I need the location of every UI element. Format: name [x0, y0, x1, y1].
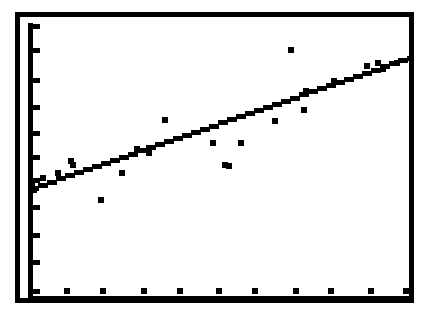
regression-line-segment [200, 127, 210, 132]
regression-line-segment [218, 120, 228, 125]
regression-line-segment [92, 164, 102, 169]
regression-line-segment [146, 145, 156, 150]
y-axis-tick [30, 205, 40, 210]
regression-line-segment [110, 158, 120, 163]
y-axis-tick [30, 78, 40, 83]
scatter-point [146, 150, 152, 156]
scatter-point [380, 66, 386, 72]
regression-line-segment [38, 183, 48, 188]
x-axis-marker [252, 288, 258, 294]
regression-line-segment [119, 155, 129, 160]
y-axis-tick [30, 289, 40, 294]
y-axis-tick [30, 24, 40, 29]
x-axis-marker [293, 288, 299, 294]
scatter-point [226, 163, 232, 169]
plot-background [0, 0, 426, 325]
scatter-point [40, 175, 46, 181]
regression-line-segment [128, 152, 138, 157]
y-axis-tick [30, 155, 40, 160]
x-axis-marker [141, 288, 147, 294]
x-axis-marker [403, 288, 409, 294]
x-axis-marker [177, 288, 183, 294]
regression-line-segment [191, 130, 201, 135]
y-axis-tick [30, 105, 40, 110]
scatter-point [238, 140, 244, 146]
regression-line-segment [263, 105, 273, 110]
scatter-point [210, 140, 216, 146]
regression-line-segment [155, 142, 165, 147]
y-axis-tick [30, 260, 40, 265]
regression-line-segment [47, 180, 57, 185]
regression-line-segment [56, 176, 66, 181]
scatter-point [134, 146, 140, 152]
regression-line-segment [272, 102, 282, 107]
scatter-point [375, 60, 381, 66]
regression-line-segment [344, 77, 354, 82]
x-axis-marker [368, 288, 374, 294]
scatter-point [119, 170, 125, 176]
regression-line-segment [281, 99, 291, 104]
regression-line-segment [74, 170, 84, 175]
y-axis-tick [30, 131, 40, 136]
regression-line-segment [173, 136, 183, 141]
regression-line-segment [65, 173, 75, 178]
x-axis-marker [64, 288, 70, 294]
scatter-point [364, 63, 370, 69]
y-axis-tick [30, 48, 40, 53]
scatter-point [70, 162, 76, 168]
regression-line-segment [182, 133, 192, 138]
x-axis-marker [100, 288, 106, 294]
regression-line-segment [164, 139, 174, 144]
regression-line-segment [353, 74, 363, 79]
scatter-point [303, 88, 309, 94]
regression-line-segment [371, 68, 381, 73]
y-axis-tick [30, 178, 40, 183]
scatter-point [272, 118, 278, 124]
scatter-point [162, 117, 168, 123]
regression-line-segment [227, 117, 237, 122]
regression-line-segment [290, 96, 300, 101]
scatter-point [55, 170, 61, 176]
scatter-point [301, 107, 307, 113]
regression-line-segment [362, 71, 372, 76]
scatter-point [331, 78, 337, 84]
scatter-point [394, 60, 400, 66]
figure-root [0, 0, 426, 325]
regression-line-segment [101, 161, 111, 166]
x-axis-marker [328, 288, 334, 294]
scatter-point [31, 187, 37, 193]
regression-line-segment [236, 114, 246, 119]
regression-line-segment [308, 89, 318, 94]
regression-line-segment [317, 86, 327, 91]
regression-line-segment [245, 111, 255, 116]
y-axis-tick [30, 233, 40, 238]
scatter-point [98, 197, 104, 203]
regression-line-segment [209, 124, 219, 129]
x-axis-marker [216, 288, 222, 294]
regression-line-segment [83, 167, 93, 172]
regression-line-segment [254, 108, 264, 113]
scatter-plot-canvas [0, 0, 426, 325]
scatter-point [288, 47, 294, 53]
regression-line-segment [407, 56, 411, 61]
